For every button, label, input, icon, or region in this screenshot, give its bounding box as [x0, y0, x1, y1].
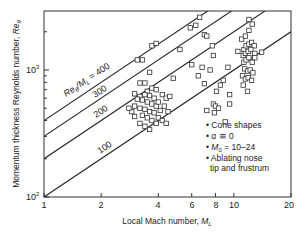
- x-tick-label-2: 2: [98, 200, 103, 210]
- data-point: [226, 65, 230, 69]
- data-point: [259, 50, 263, 54]
- reference-line-300: [44, 0, 308, 136]
- data-point: [227, 102, 231, 106]
- x-tick-label-1: 1: [41, 200, 46, 210]
- data-point: [250, 60, 254, 64]
- x-tick-label-8: 8: [213, 200, 218, 210]
- data-point: [135, 97, 139, 101]
- data-point: [140, 98, 144, 102]
- data-point: [152, 111, 156, 115]
- data-point: [147, 70, 151, 74]
- line-label-100: 100: [96, 139, 114, 156]
- data-point: [166, 109, 170, 113]
- data-point: [243, 34, 247, 38]
- data-point: [249, 78, 253, 82]
- data-point: [147, 93, 151, 97]
- x-tick-label-4: 4: [155, 200, 160, 210]
- data-point: [214, 89, 218, 93]
- data-point: [168, 94, 172, 98]
- data-points: [127, 15, 264, 132]
- data-point: [197, 15, 201, 19]
- data-point: [140, 113, 144, 117]
- data-point: [132, 104, 136, 108]
- legend-item-ablating-cont: tip and frustrum: [210, 163, 269, 173]
- data-point: [218, 83, 222, 87]
- data-point: [208, 68, 212, 72]
- data-point: [190, 63, 194, 67]
- data-point: [205, 108, 209, 112]
- data-point: [211, 53, 215, 57]
- data-point: [221, 78, 225, 82]
- data-point: [247, 56, 251, 60]
- y-tick-label-100: 102: [26, 191, 40, 202]
- data-point: [253, 56, 257, 60]
- data-point: [143, 107, 147, 111]
- data-point: [147, 127, 151, 131]
- data-point: [147, 109, 151, 113]
- data-point: [132, 114, 136, 118]
- legend-item-cone-shapes: • Cone shapes: [206, 120, 261, 130]
- data-point: [140, 58, 144, 62]
- y-tick-label-1000: 103: [26, 64, 40, 75]
- x-axis-label: Local Mach number, ML: [122, 216, 211, 227]
- x-tick-label-20: 20: [284, 200, 294, 210]
- scatter-chart: 102 103 1 2 4 6 8 10 20 Local Mach numbe…: [0, 0, 308, 234]
- data-point: [150, 86, 154, 90]
- data-point: [205, 34, 209, 38]
- data-point: [143, 81, 147, 85]
- legend-item-mach: • M0 = 10–24: [206, 142, 255, 153]
- data-point: [143, 92, 147, 96]
- data-point: [194, 23, 198, 27]
- data-point: [164, 121, 168, 125]
- legend-item-alpha: • α ≅ 0: [206, 131, 234, 141]
- legend: • Cone shapes • α ≅ 0 • M0 = 10–24 • Abl…: [206, 120, 269, 173]
- data-point: [150, 44, 154, 48]
- data-point: [138, 121, 142, 125]
- data-point: [150, 118, 154, 122]
- legend-item-ablating: • Ablating nose: [206, 153, 263, 163]
- x-tick-label-6: 6: [189, 200, 194, 210]
- y-axis-label: Momentum thickness Reynolds number, Reθ: [11, 19, 22, 187]
- data-point: [227, 92, 231, 96]
- data-point: [150, 102, 154, 106]
- data-point: [145, 116, 149, 120]
- data-point: [188, 26, 192, 30]
- data-point: [154, 41, 158, 45]
- data-point: [212, 111, 216, 115]
- data-point: [143, 124, 147, 128]
- data-point: [145, 100, 149, 104]
- line-label-300: 300: [91, 83, 109, 100]
- data-point: [250, 22, 254, 26]
- data-point: [152, 96, 156, 100]
- data-point: [253, 51, 257, 55]
- data-point: [247, 17, 251, 21]
- data-point: [178, 47, 182, 51]
- data-point: [216, 106, 220, 110]
- data-point: [245, 89, 249, 93]
- data-point: [158, 108, 162, 112]
- data-point: [171, 76, 175, 80]
- reference-line-400: [44, 0, 308, 121]
- y-axis-ticks: [44, 32, 49, 197]
- data-point: [210, 44, 214, 48]
- data-point: [251, 71, 255, 75]
- data-point: [132, 92, 136, 96]
- data-point: [138, 81, 142, 85]
- x-axis-ticks: [44, 193, 291, 197]
- data-point: [156, 100, 160, 104]
- data-point: [138, 106, 142, 110]
- data-point: [135, 58, 139, 62]
- data-point: [200, 65, 204, 69]
- data-point: [162, 104, 166, 108]
- data-point: [196, 74, 200, 78]
- data-point: [241, 83, 245, 87]
- data-point: [236, 49, 240, 53]
- x-tick-label-10: 10: [229, 200, 239, 210]
- data-point: [154, 88, 158, 92]
- data-point: [247, 28, 251, 32]
- data-point: [127, 106, 131, 110]
- data-point: [154, 121, 158, 125]
- data-point: [202, 82, 206, 86]
